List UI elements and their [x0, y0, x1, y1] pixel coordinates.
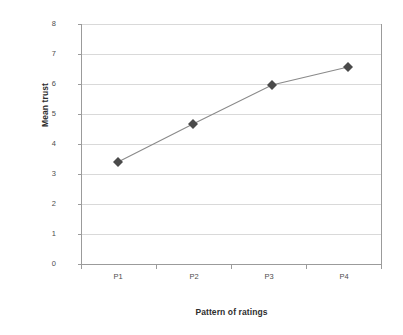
data-point-p1: [113, 157, 123, 167]
y-tick-label-7: 7: [34, 50, 56, 58]
x-tick-label-p1: P1: [88, 273, 148, 281]
gridlines: [81, 25, 382, 235]
mean-trust-line-chart: 8 7 6 5 4 3 2 1 0 P1 P2 P3 P4 Mean trust…: [0, 0, 403, 335]
y-axis-title: Mean trust: [40, 60, 50, 150]
x-axis-title: Pattern of ratings: [81, 307, 382, 317]
data-point-p4: [343, 62, 353, 72]
data-point-p3: [267, 80, 277, 90]
y-tick-label-3: 3: [34, 170, 56, 178]
y-tick-label-0: 0: [34, 260, 56, 268]
y-tick-label-8: 8: [34, 20, 56, 28]
x-tick-label-p2: P2: [164, 273, 224, 281]
x-tick-label-p4: P4: [314, 273, 374, 281]
chart-plot-area: [0, 0, 403, 335]
y-tick-label-2: 2: [34, 200, 56, 208]
y-tick-label-1: 1: [34, 230, 56, 238]
data-point-p2: [188, 119, 198, 129]
x-tick-label-p3: P3: [239, 273, 299, 281]
y-axis-ticks: [78, 25, 81, 265]
